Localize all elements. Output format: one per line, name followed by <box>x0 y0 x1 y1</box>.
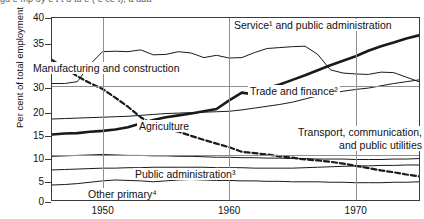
y-tick-label-15: 15 <box>33 131 44 141</box>
annotation-manufacturing-text: Manufacturing and construction <box>33 62 180 74</box>
x-axis-ticks: 195019601970 <box>0 203 424 219</box>
annotation-other-primary: Other primary⁴ <box>86 188 159 200</box>
y-tick-label-35: 35 <box>33 39 44 49</box>
y-tick-label-10: 10 <box>33 154 44 164</box>
annotation-manufacturing: Manufacturing and construction <box>31 62 182 74</box>
horizontal-gridline <box>52 155 419 156</box>
vertical-gridline <box>103 18 104 200</box>
annotation-service: Service¹ and public administration <box>232 19 394 31</box>
y-tick-label-40: 40 <box>33 13 44 23</box>
vertical-gridline <box>356 18 357 200</box>
annotation-public-admin-text: Public administration³ <box>135 168 235 180</box>
annotation-transport-line1: Transport, communication, <box>298 126 422 138</box>
horizontal-gridline <box>52 86 419 87</box>
y-tick-label-20: 20 <box>33 108 44 118</box>
annotation-transport-line2: and public utilities <box>339 139 422 151</box>
x-tick-label-1950: 1950 <box>91 205 113 216</box>
annotation-trade-text: Trade and finance² <box>250 85 338 97</box>
y-tick-label-5: 5 <box>38 177 44 187</box>
annotation-trade: Trade and finance² <box>248 85 340 97</box>
annotation-public-admin: Public administration³ <box>133 168 237 180</box>
y-tick-label-30: 30 <box>33 83 44 93</box>
figure-caption: gu e mp oy e t t u tu e ( e ce t), a ada <box>0 0 424 6</box>
annotation-service-text: Service¹ and public administration <box>234 19 392 31</box>
x-tick-label-1960: 1960 <box>218 205 240 216</box>
y-axis-ticks: 4035253020151050 <box>0 0 51 219</box>
series-line <box>52 180 419 185</box>
annotation-agriculture-text: Agriculture <box>139 120 189 132</box>
annotation-transport: Transport, communication, and public uti… <box>268 126 424 151</box>
series-line <box>52 60 419 176</box>
annotation-other-primary-text: Other primary⁴ <box>88 188 157 200</box>
series-line <box>52 35 419 134</box>
x-tick-label-1970: 1970 <box>345 205 367 216</box>
chart-figure: gu e mp oy e t t u tu e ( e ce t), a ada… <box>0 0 424 219</box>
annotation-agriculture: Agriculture <box>137 120 191 132</box>
